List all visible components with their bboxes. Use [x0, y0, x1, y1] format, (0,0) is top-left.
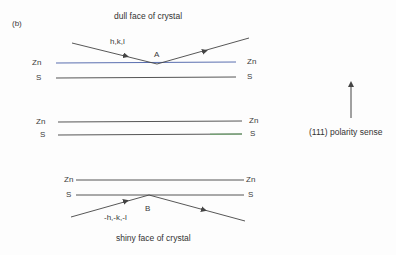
bottom-s-right: S: [248, 191, 253, 199]
top-caption: dull face of crystal: [114, 12, 182, 21]
polarity-label: (111) polarity sense: [309, 128, 382, 137]
middle-s-right: S: [250, 130, 255, 138]
bottom-zn-left: Zn: [64, 176, 73, 184]
top-zn-right: Zn: [247, 58, 256, 66]
incident-label-top: h,k,l: [110, 38, 125, 46]
middle-zn-line: [58, 121, 242, 122]
crystal-polarity-diagram: (b) dull face of crystal h,k,l A Zn S Zn…: [0, 0, 396, 255]
middle-zn-left: Zn: [36, 118, 45, 126]
panel-label: (b): [12, 20, 22, 28]
bottom-caption: shiny face of crystal: [116, 234, 191, 243]
top-s-right: S: [247, 73, 252, 81]
middle-s-left: S: [40, 131, 45, 139]
middle-zn-right: Zn: [249, 117, 258, 125]
point-a-label: A: [154, 51, 159, 59]
top-s-line: [56, 77, 236, 78]
bottom-s-left: S: [66, 191, 71, 199]
reflected-ray-top: [157, 38, 249, 64]
point-b-label: B: [145, 205, 150, 213]
reflected-ray-bottom: [149, 195, 245, 221]
top-zn-left: Zn: [32, 59, 41, 67]
incident-label-bottom: -h,-k,-l: [104, 214, 127, 222]
incident-ray-top: [72, 43, 157, 64]
bottom-zn-right: Zn: [246, 176, 255, 184]
top-zn-line: [56, 62, 236, 63]
top-s-left: S: [36, 74, 41, 82]
